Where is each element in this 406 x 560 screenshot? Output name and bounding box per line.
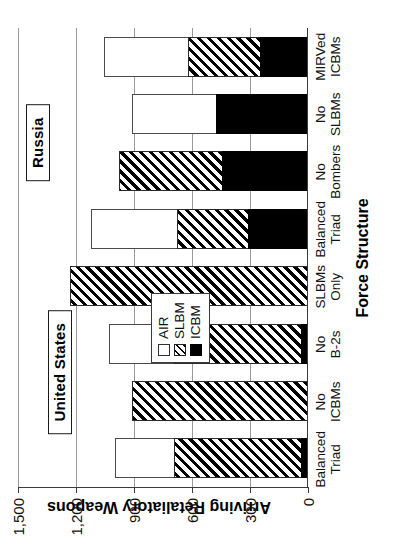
bar-segment-slbm bbox=[174, 438, 301, 478]
plot-area: 03006009001,2001,500 United StatesRussia… bbox=[18, 28, 308, 488]
y-axis-tick bbox=[250, 487, 251, 493]
x-axis-category-label: BalancedTriad bbox=[313, 431, 343, 489]
legend-swatch-slbm bbox=[174, 344, 186, 356]
legend-label-slbm: SLBM bbox=[172, 302, 187, 339]
bar-segment-air bbox=[115, 438, 174, 478]
bar-segment-air bbox=[91, 209, 177, 249]
category-label-line: SLBMs bbox=[313, 258, 328, 316]
bar-segment-icbm bbox=[301, 438, 307, 478]
x-axis-category-label: SLBMsOnly bbox=[313, 258, 343, 316]
x-axis-title: Force Structure bbox=[354, 28, 372, 488]
category-label-line: Only bbox=[328, 258, 343, 316]
category-label-line: Balanced bbox=[313, 431, 328, 489]
category-label-line: Triad bbox=[328, 201, 343, 259]
y-axis-tick-label: 600 bbox=[184, 498, 201, 523]
chart-legend: AIRSLBMICBM bbox=[151, 293, 210, 363]
chart-area: Arriving Retaliatory Weapons 03006009001… bbox=[0, 0, 406, 560]
bar-segment-slbm bbox=[119, 151, 222, 191]
bar-column bbox=[18, 37, 307, 77]
category-label-line: Balanced bbox=[313, 201, 328, 259]
bar-segment-icbm bbox=[248, 209, 307, 249]
category-label-line: SLBMs bbox=[328, 86, 343, 144]
y-axis-tick bbox=[18, 487, 19, 493]
y-axis-tick-label: 1,200 bbox=[68, 498, 85, 536]
x-axis-category-label: MIRVedICBMs bbox=[313, 28, 343, 86]
bar-segment-air bbox=[132, 94, 216, 134]
legend-item: AIR bbox=[156, 302, 172, 356]
bar-segment-slbm bbox=[188, 37, 259, 77]
bar-column bbox=[18, 438, 307, 478]
x-axis-category-label: NoB-2s bbox=[313, 316, 343, 374]
x-axis-category-label: NoSLBMs bbox=[313, 86, 343, 144]
category-label-line: MIRVed bbox=[313, 28, 328, 86]
y-axis-tick bbox=[76, 487, 77, 493]
category-label-line: No bbox=[313, 86, 328, 144]
group-banner-russia: Russia bbox=[26, 105, 50, 181]
chart-figure: Arriving Retaliatory Weapons 03006009001… bbox=[0, 0, 406, 560]
x-axis-category-label: BalancedTriad bbox=[313, 201, 343, 259]
y-axis-tick bbox=[134, 487, 135, 493]
legend-swatch-air bbox=[158, 344, 170, 356]
legend-label-air: AIR bbox=[156, 317, 171, 340]
category-label-line: Bombers bbox=[328, 143, 343, 201]
y-axis-tick-label: 1,500 bbox=[10, 498, 27, 536]
category-label-line: No bbox=[313, 373, 328, 431]
bar-column bbox=[18, 94, 307, 134]
x-axis-category-label: NoICBMs bbox=[313, 373, 343, 431]
y-axis-tick-label: 0 bbox=[300, 498, 317, 506]
legend-item: ICBM bbox=[188, 302, 204, 356]
y-axis-tick-label: 900 bbox=[126, 498, 143, 523]
bar-segment-icbm bbox=[222, 151, 307, 191]
bar-segment-slbm bbox=[177, 209, 248, 249]
x-axis-category-labels: BalancedTriadNoICBMsNoB-2sSLBMsOnlyBalan… bbox=[313, 28, 343, 488]
y-axis-tick bbox=[308, 487, 309, 493]
legend-swatch-icbm bbox=[190, 344, 202, 356]
category-label-line: Triad bbox=[328, 431, 343, 489]
y-axis-title: Arriving Retaliatory Weapons bbox=[14, 498, 304, 516]
bar-column bbox=[18, 151, 307, 191]
bar-segment-air bbox=[104, 37, 189, 77]
y-axis-tick-label: 300 bbox=[242, 498, 259, 523]
legend-item: SLBM bbox=[172, 302, 188, 356]
category-label-line: B-2s bbox=[328, 316, 343, 374]
bar-segment-slbm bbox=[132, 381, 307, 421]
category-label-line: ICBMs bbox=[328, 28, 343, 86]
legend-label-icbm: ICBM bbox=[188, 305, 203, 339]
y-axis-tick bbox=[192, 487, 193, 493]
x-axis-category-label: NoBombers bbox=[313, 143, 343, 201]
bar-segment-icbm bbox=[260, 37, 307, 77]
bar-segment-icbm bbox=[301, 324, 307, 364]
rotated-chart-canvas: Arriving Retaliatory Weapons 03006009001… bbox=[0, 0, 406, 560]
group-banner-united-states: United States bbox=[48, 310, 72, 434]
category-label-line: No bbox=[313, 143, 328, 201]
bar-segment-icbm bbox=[216, 94, 307, 134]
category-label-line: No bbox=[313, 316, 328, 374]
bar-column bbox=[18, 209, 307, 249]
category-label-line: ICBMs bbox=[328, 373, 343, 431]
